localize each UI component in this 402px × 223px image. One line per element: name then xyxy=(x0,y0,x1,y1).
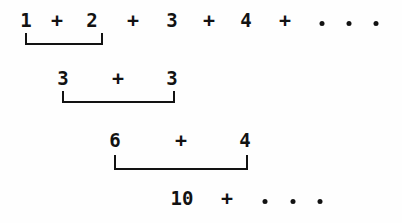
figure-canvas: 1 + 2 + 3 + 4 + 3 + 3 6 + 4 10 + xyxy=(0,0,402,223)
row4-ellipsis-dot-1 xyxy=(263,199,268,204)
underbrace-row1 xyxy=(25,33,103,45)
row2-operator-1: + xyxy=(112,69,124,88)
row1-ellipsis-dot-2 xyxy=(347,21,352,26)
row2-term-2: 3 xyxy=(166,69,177,88)
row1-operator-2: + xyxy=(127,11,139,30)
row4-term-1: 10 xyxy=(171,189,194,208)
row4-operator-1: + xyxy=(221,189,233,208)
underbrace-row3 xyxy=(114,155,248,170)
row1-term-1: 1 xyxy=(20,11,31,30)
row4-ellipsis-dot-2 xyxy=(291,199,296,204)
row2-term-1: 3 xyxy=(57,69,68,88)
row3-operator-1: + xyxy=(175,131,187,150)
row1-operator-1: + xyxy=(51,11,63,30)
underbrace-row2 xyxy=(62,91,175,103)
row1-operator-3: + xyxy=(203,11,215,30)
row1-operator-4: + xyxy=(279,11,291,30)
row4-ellipsis-dot-3 xyxy=(318,199,323,204)
row3-term-2: 4 xyxy=(239,131,250,150)
row1-ellipsis-dot-1 xyxy=(320,21,325,26)
row1-ellipsis-dot-3 xyxy=(374,21,379,26)
row1-term-4: 4 xyxy=(240,11,251,30)
row1-term-3: 3 xyxy=(166,11,177,30)
row1-term-2: 2 xyxy=(86,11,97,30)
row3-term-1: 6 xyxy=(109,131,120,150)
